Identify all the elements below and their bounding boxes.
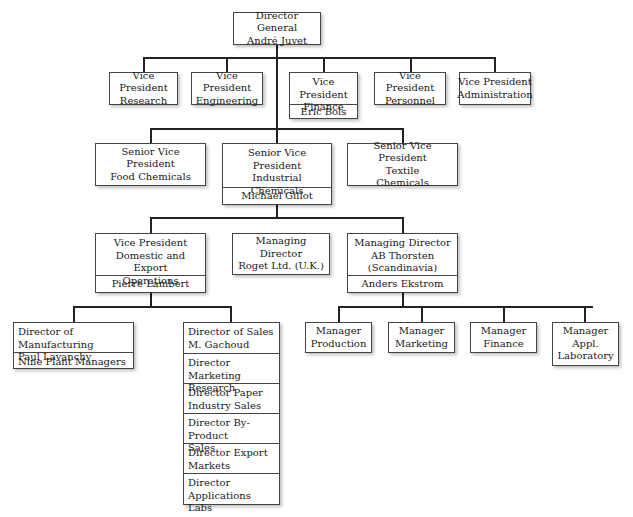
connector — [338, 306, 593, 308]
vp-title: Vice President — [112, 70, 175, 95]
connector — [150, 217, 404, 219]
manager-finance-box: Manager Finance — [470, 322, 537, 353]
connector — [494, 57, 496, 72]
director-marketing-research: Director Marketing — [188, 357, 275, 382]
connector — [150, 292, 152, 307]
connector — [584, 306, 586, 322]
svp-dept: Industrial — [225, 172, 329, 185]
svp-dept: Chemicals — [350, 177, 455, 190]
svp-industrial-chemicals-box: Senior Vice President Industrial Chemica… — [222, 143, 332, 205]
manager-title: Manager — [311, 325, 367, 338]
manager-title: Manager — [557, 325, 613, 338]
plant-managers: Nine Plant Managers — [18, 356, 129, 369]
director-general-name: André Juvet — [236, 35, 318, 48]
svp-dept: Textile — [350, 165, 455, 178]
manufacturing-title: Director of Manufacturing — [18, 326, 129, 351]
vp-engineering-box: Vice President Engineering — [191, 72, 263, 105]
connector — [150, 128, 404, 130]
md-region: (Scandinavia) — [350, 262, 455, 275]
vp-dept: Administration — [457, 89, 533, 102]
connector — [323, 57, 325, 72]
director-by-product: Director By-Product — [188, 417, 275, 442]
vp-dept: Personnel — [377, 95, 443, 108]
connector — [73, 306, 232, 308]
md-thorsten-name: Anders Ekstrom — [350, 278, 455, 291]
connector — [503, 306, 505, 322]
connector — [402, 217, 404, 233]
md-roget-box: Managing Director Roget Ltd. (U.K.) — [232, 233, 330, 275]
manager-title: Manager — [395, 325, 448, 338]
sales-stack-box: Director of Sales M. Gachoud Director Ma… — [183, 322, 280, 505]
svp-food-chemicals-box: Senior Vice President Food Chemicals — [95, 143, 206, 186]
director-sales-name: M. Gachoud — [188, 339, 275, 352]
md-ab-thorsten-box: Managing Director AB Thorsten (Scandinav… — [347, 233, 458, 293]
md-company: AB Thorsten — [350, 250, 455, 263]
md-title: Managing Director — [350, 237, 455, 250]
director-export-markets: Director Export — [188, 447, 275, 460]
director-general-box: Director General André Juvet — [233, 12, 321, 45]
connector — [150, 217, 152, 233]
director-general-title: Director General — [236, 10, 318, 35]
vp-domestic-name: Pierre Lambert — [98, 278, 203, 291]
vp-title: Vice President — [377, 70, 443, 95]
connector — [421, 306, 423, 322]
vp-personnel-box: Vice President Personnel — [374, 72, 446, 105]
connector — [150, 128, 152, 143]
vp-title: Vice President — [292, 76, 355, 101]
svp-industrial-name: Michael Gillot — [225, 190, 329, 203]
connector — [402, 292, 404, 307]
director-export-markets: Markets — [188, 460, 275, 473]
director-applications-labs: Director — [188, 477, 275, 490]
svp-textile-chemicals-box: Senior Vice President Textile Chemicals — [347, 143, 458, 186]
manager-marketing-box: Manager Marketing — [388, 322, 455, 353]
vp-domestic-export-box: Vice President Domestic and Export Opera… — [95, 233, 206, 293]
director-paper-industry: Industry Sales — [188, 400, 275, 413]
vp-title: Vice President — [98, 237, 203, 250]
connector — [230, 306, 232, 322]
connector — [338, 306, 340, 322]
manager-dept: Marketing — [395, 338, 448, 351]
manager-dept: Laboratory — [557, 350, 613, 363]
manager-dept: Production — [311, 338, 367, 351]
vp-finance-box: Vice President Finance Eric Bols — [289, 72, 358, 119]
svp-dept: Food Chemicals — [98, 171, 203, 184]
director-applications-labs: Applications Labs — [188, 490, 275, 515]
director-sales-title: Director of Sales — [188, 326, 275, 339]
md-title: Managing Director — [235, 235, 327, 260]
vp-dept: Research — [112, 95, 175, 108]
connector — [143, 57, 496, 59]
manager-production-box: Manager Production — [305, 322, 372, 353]
vp-administration-box: Vice President Administration — [459, 72, 531, 105]
md-company: Roget Ltd. (U.K.) — [235, 260, 327, 273]
vp-finance-name: Eric Bols — [292, 106, 355, 119]
director-manufacturing-box: Director of Manufacturing Paul Lavanchy … — [13, 322, 134, 369]
manager-appl-laboratory-box: Manager Appl. Laboratory — [552, 322, 619, 366]
svp-title: Senior Vice President — [98, 146, 203, 171]
director-paper-industry: Director Paper — [188, 387, 275, 400]
vp-title: Vice President — [194, 70, 260, 95]
vp-research-box: Vice President Research — [109, 72, 178, 105]
manager-title: Manager — [481, 325, 527, 338]
vp-dept: Engineering — [194, 95, 260, 108]
svp-title: Senior Vice President — [225, 147, 329, 172]
connector — [73, 306, 75, 322]
svp-title: Senior Vice President — [350, 140, 455, 165]
manager-dept: Finance — [481, 338, 527, 351]
vp-title: Vice President — [457, 76, 533, 89]
manager-dept: Appl. — [557, 338, 613, 351]
vp-dept: Domestic and Export — [98, 250, 203, 275]
